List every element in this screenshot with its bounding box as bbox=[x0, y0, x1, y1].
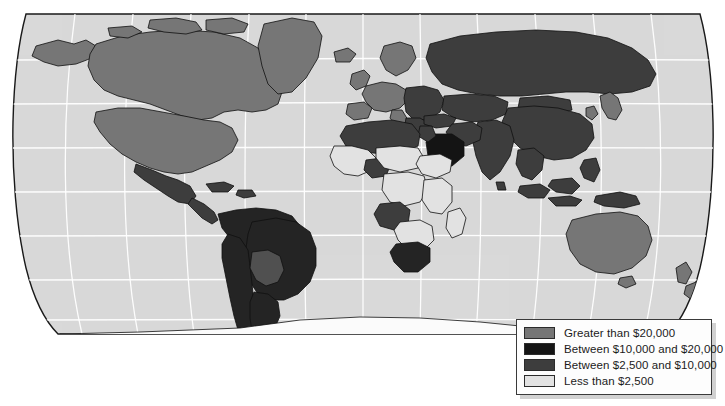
map-figure: Greater than $20,000 Between $10,000 and… bbox=[0, 0, 725, 406]
legend-swatch-between-2500-and-10000 bbox=[524, 359, 555, 371]
legend-item-2: Between $2,500 and $10,000 bbox=[524, 358, 705, 373]
legend-label-between-10000-and-20000: Between $10,000 and $20,000 bbox=[564, 343, 723, 355]
region-central-africa bbox=[382, 172, 428, 206]
legend-label-between-2500-and-10000: Between $2,500 and $10,000 bbox=[564, 359, 717, 371]
legend-label-greater-than-20000: Greater than $20,000 bbox=[564, 327, 675, 339]
legend-item-3: Less than $2,500 bbox=[524, 374, 705, 389]
region-iberia bbox=[346, 102, 372, 120]
legend-label-less-than-2500: Less than $2,500 bbox=[564, 375, 654, 387]
legend-item-1: Between $10,000 and $20,000 bbox=[524, 341, 705, 356]
legend-swatch-between-10000-and-20000 bbox=[524, 343, 555, 355]
legend-item-0: Greater than $20,000 bbox=[524, 325, 705, 340]
legend-swatch-less-than-2500 bbox=[524, 375, 555, 387]
legend-swatch-greater-than-20000 bbox=[524, 327, 555, 339]
map-legend: Greater than $20,000 Between $10,000 and… bbox=[516, 319, 712, 395]
region-sri-lanka bbox=[496, 182, 506, 190]
